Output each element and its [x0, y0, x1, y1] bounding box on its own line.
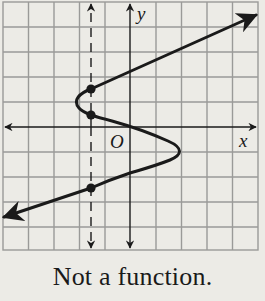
y-axis-label: y: [135, 3, 146, 24]
intersection-point-2: [86, 110, 95, 119]
graph: y x O: [0, 0, 265, 255]
relation-curve-middle: [76, 89, 179, 188]
origin-label: O: [110, 131, 124, 152]
intersection-point-1: [86, 84, 95, 93]
x-axis-label: x: [238, 130, 248, 151]
caption: Not a function.: [0, 262, 265, 292]
intersection-point-3: [86, 183, 95, 192]
